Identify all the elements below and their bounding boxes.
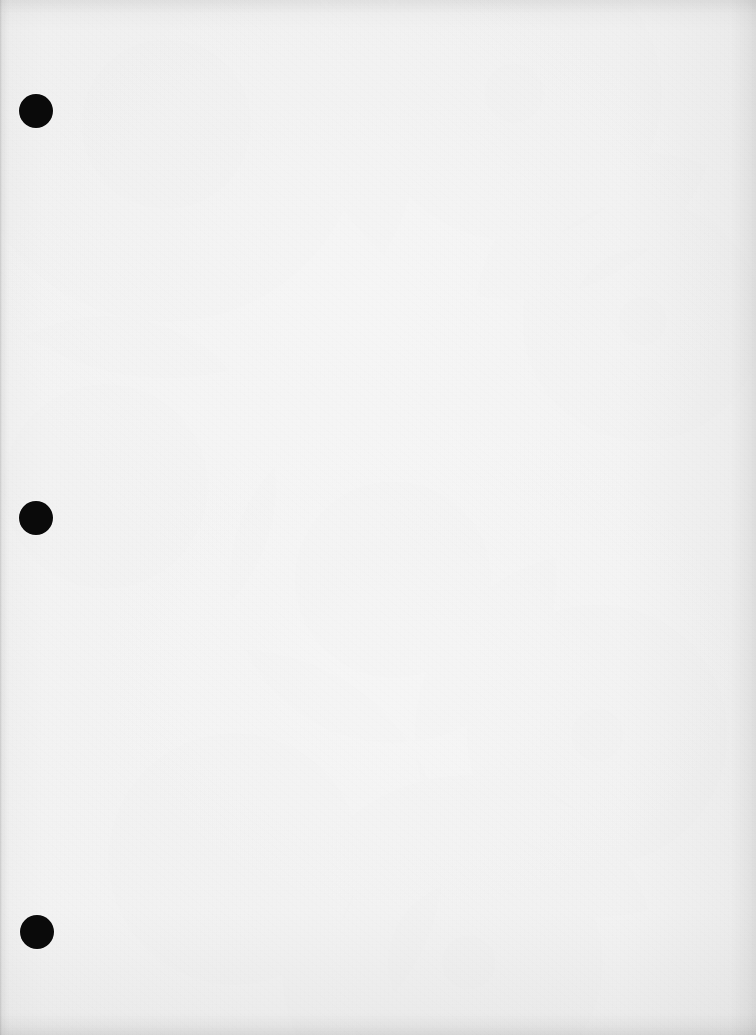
- scanned-page: [0, 0, 756, 1035]
- scan-edge-shading: [0, 0, 756, 1035]
- punch-hole-middle: [19, 501, 53, 535]
- paper-mottle-texture: [0, 0, 756, 1035]
- punch-hole-bottom: [20, 915, 54, 949]
- punch-hole-top: [19, 94, 53, 128]
- paper-grain-texture: [0, 0, 756, 1035]
